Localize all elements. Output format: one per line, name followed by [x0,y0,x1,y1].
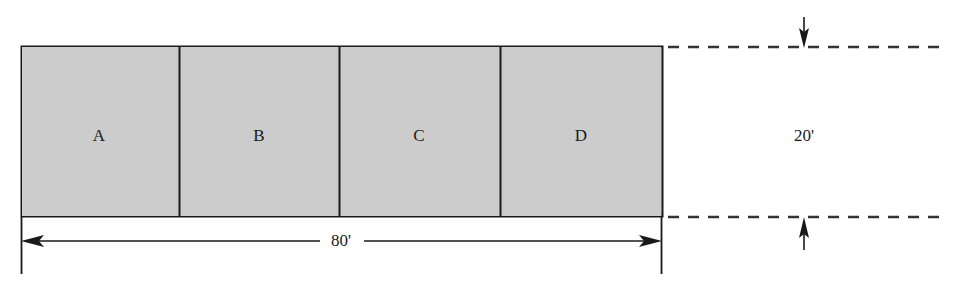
parcel-label-d: D [575,126,587,146]
parcel-label-a: A [93,126,105,146]
parcel-label-b: B [253,126,264,146]
depth-dimension-label: 20' [794,126,814,146]
width-dimension-label: 80' [331,231,351,251]
diagram-canvas [0,0,967,307]
parcel-label-c: C [413,126,424,146]
lot-rectangle-group [22,47,663,217]
lot-diagram: A B C D 80' 20' [0,0,967,307]
